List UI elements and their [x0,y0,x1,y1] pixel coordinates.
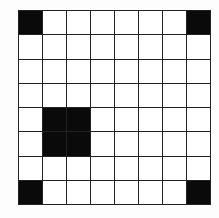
empty-cell [163,11,187,35]
empty-cell [139,60,163,84]
empty-cell [139,181,163,205]
empty-cell [91,132,115,156]
empty-cell [163,181,187,205]
empty-cell [91,181,115,205]
empty-cell [91,11,115,35]
empty-cell [19,108,43,132]
empty-cell [67,181,91,205]
empty-cell [139,132,163,156]
empty-cell [91,35,115,59]
empty-cell [139,35,163,59]
empty-cell [163,132,187,156]
empty-cell [139,84,163,108]
empty-cell [43,157,67,181]
empty-cell [19,157,43,181]
empty-cell [163,108,187,132]
empty-cell [67,11,91,35]
pixel-grid [18,10,211,205]
empty-cell [19,35,43,59]
empty-cell [43,60,67,84]
empty-cell [115,84,139,108]
empty-cell [115,132,139,156]
filled-cell [19,181,43,205]
empty-cell [43,84,67,108]
empty-cell [67,157,91,181]
empty-cell [91,84,115,108]
filled-cell [187,11,211,35]
empty-cell [19,60,43,84]
empty-cell [187,108,211,132]
filled-cell [67,132,91,156]
empty-cell [43,11,67,35]
filled-cell [67,108,91,132]
empty-cell [115,35,139,59]
filled-cell [187,181,211,205]
empty-cell [91,60,115,84]
filled-cell [43,108,67,132]
empty-cell [115,11,139,35]
empty-cell [163,35,187,59]
empty-cell [115,157,139,181]
empty-cell [115,108,139,132]
empty-cell [67,60,91,84]
empty-cell [91,108,115,132]
empty-cell [19,132,43,156]
empty-cell [43,181,67,205]
empty-cell [67,84,91,108]
empty-cell [139,108,163,132]
empty-cell [43,35,67,59]
empty-cell [187,60,211,84]
empty-cell [187,132,211,156]
empty-cell [19,84,43,108]
empty-cell [91,157,115,181]
empty-cell [139,157,163,181]
empty-cell [187,35,211,59]
empty-cell [187,157,211,181]
empty-cell [115,60,139,84]
filled-cell [43,132,67,156]
empty-cell [67,35,91,59]
empty-cell [187,84,211,108]
empty-cell [163,84,187,108]
empty-cell [163,60,187,84]
empty-cell [163,157,187,181]
empty-cell [115,181,139,205]
filled-cell [19,11,43,35]
empty-cell [139,11,163,35]
